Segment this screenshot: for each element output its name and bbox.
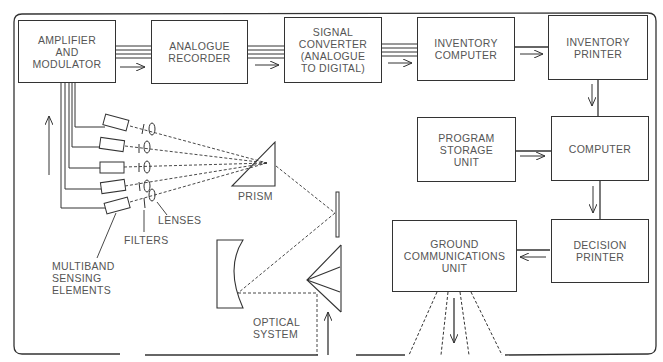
block-label: DECISION PRINTER <box>573 239 626 263</box>
block-ground-communications: GROUND COMMUNICATIONS UNIT <box>392 220 517 292</box>
block-label: AMPLIFIER AND MODULATOR <box>33 34 102 70</box>
block-label: COMPUTER <box>569 143 631 155</box>
label-lenses: LENSES <box>158 214 201 226</box>
label-prism: PRISM <box>238 190 273 202</box>
block-inventory-computer: INVENTORY COMPUTER <box>417 17 515 81</box>
block-signal-converter: SIGNAL CONVERTER (ANALOGUE TO DIGITAL) <box>284 17 382 83</box>
block-label: SIGNAL CONVERTER (ANALOGUE TO DIGITAL) <box>299 26 367 74</box>
block-label: INVENTORY PRINTER <box>566 36 630 60</box>
block-computer: COMPUTER <box>551 116 649 181</box>
label-filters: FILTERS <box>124 234 169 246</box>
block-amplifier-modulator: AMPLIFIER AND MODULATOR <box>18 20 116 83</box>
block-label: INVENTORY COMPUTER <box>434 37 498 61</box>
block-label: ANALOGUE RECORDER <box>168 40 231 64</box>
label-optical-system: OPTICAL SYSTEM <box>253 316 300 340</box>
block-label: GROUND COMMUNICATIONS UNIT <box>404 238 505 274</box>
label-sensing-elements: MULTIBAND SENSING ELEMENTS <box>52 260 115 296</box>
block-program-storage: PROGRAM STORAGE UNIT <box>417 117 516 182</box>
block-analogue-recorder: ANALOGUE RECORDER <box>151 20 248 84</box>
block-inventory-printer: INVENTORY PRINTER <box>548 15 648 80</box>
prism-shape <box>232 142 275 186</box>
block-label: PROGRAM STORAGE UNIT <box>438 132 494 168</box>
block-decision-printer: DECISION PRINTER <box>551 219 649 283</box>
